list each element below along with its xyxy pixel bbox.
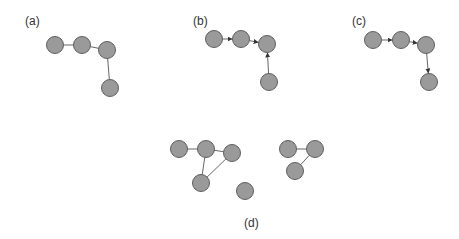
- graph-node: [193, 175, 210, 192]
- graph-node: [418, 37, 435, 54]
- edge: [108, 58, 110, 79]
- graph-node: [261, 74, 278, 91]
- graph-node: [224, 145, 241, 162]
- graph-node: [287, 163, 304, 180]
- graph-node: [99, 42, 116, 59]
- edge: [301, 155, 310, 164]
- panel-label: (d): [244, 216, 259, 230]
- edge: [202, 157, 205, 174]
- graph-node: [365, 32, 382, 49]
- directed-edge: [409, 42, 417, 44]
- graph-node: [259, 36, 276, 53]
- graph-node: [206, 31, 223, 48]
- graph-diagram: (a)(b)(c)(d): [0, 0, 459, 239]
- panel-label: (a): [25, 14, 40, 28]
- edge: [207, 159, 226, 177]
- directed-edge: [427, 53, 429, 73]
- graph-node: [102, 80, 119, 97]
- graph-node: [421, 74, 438, 91]
- graph-node: [237, 183, 254, 200]
- graph-node: [47, 37, 64, 54]
- graph-node: [307, 141, 324, 158]
- graph-node: [198, 141, 215, 158]
- graph-node: [393, 32, 410, 49]
- directed-edge: [249, 41, 258, 43]
- directed-edge: [267, 52, 268, 73]
- edge: [214, 150, 223, 151]
- panel-label: (c): [352, 14, 366, 28]
- graph-node: [171, 141, 188, 158]
- graph-node: [74, 37, 91, 54]
- edge: [90, 47, 98, 49]
- panel-label: (b): [193, 14, 208, 28]
- graph-node: [280, 141, 297, 158]
- graph-node: [233, 31, 250, 48]
